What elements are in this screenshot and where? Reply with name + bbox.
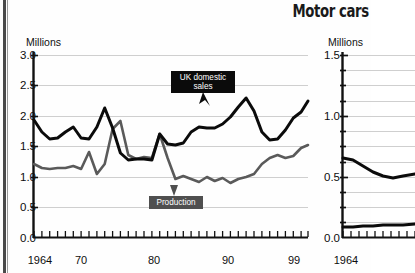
- chart-panel-left: Millions 3.0 2.5 2.0 1.5 1.0 0.5 0.0 196…: [10, 0, 315, 273]
- uk-domestic-sales-pointer: [199, 92, 210, 106]
- x-axis-ticks: [34, 231, 308, 237]
- series-line-right-upper: [343, 158, 415, 178]
- gridlines-right: [342, 56, 415, 223]
- page-rule-thick: [3, 0, 6, 273]
- annotation-production: Production: [149, 196, 203, 209]
- page-rule-thin: [7, 0, 8, 273]
- x-axis-ticks-right: [343, 231, 415, 237]
- series-line-uk-domestic-sales: [34, 98, 308, 160]
- left-chart-svg: [10, 0, 315, 273]
- plot-area-left: [10, 0, 315, 273]
- series-line-right-lower: [343, 224, 415, 227]
- plot-area-right: [320, 0, 415, 273]
- annotation-uk-domestic-sales: UK domestic sales: [171, 71, 235, 93]
- right-chart-svg: [320, 0, 415, 273]
- y-axis-ticks-right: [340, 56, 348, 223]
- production-pointer: [170, 185, 178, 196]
- chart-panel-right: Millions 1.5 1.0 0.5 0.0 1964: [320, 0, 415, 273]
